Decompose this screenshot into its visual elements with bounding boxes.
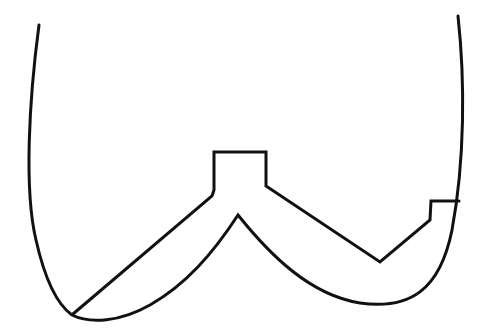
inner-channel [73,152,459,314]
line-drawing [0,0,487,336]
drawing-canvas [0,0,487,336]
outer-contour [29,16,463,320]
